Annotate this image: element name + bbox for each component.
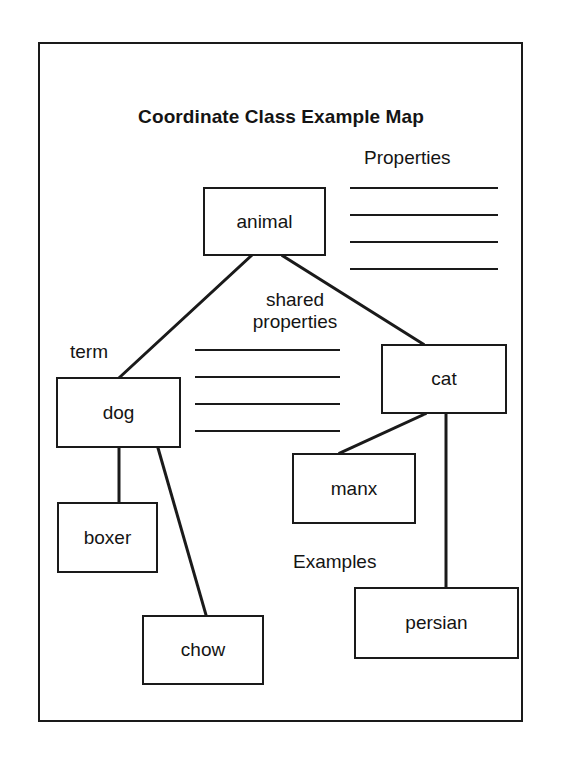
node-dog: dog (56, 377, 181, 448)
edge-dog-chow (158, 448, 206, 615)
node-persian: persian (354, 587, 519, 659)
node-boxer: boxer (57, 502, 158, 573)
node-boxer-label: boxer (84, 527, 132, 549)
node-cat: cat (381, 344, 507, 414)
edge-cat-manx (340, 414, 425, 453)
shared-label-line1: shared (235, 289, 355, 311)
concept-map-canvas: Coordinate Class Example Map (0, 0, 564, 761)
node-cat-label: cat (431, 368, 456, 390)
node-animal: animal (203, 187, 326, 256)
node-manx-label: manx (331, 478, 377, 500)
node-chow: chow (142, 615, 264, 685)
term-label: term (70, 341, 108, 363)
node-persian-label: persian (405, 612, 467, 634)
properties-label: Properties (364, 147, 451, 169)
shared-label-line2: properties (220, 311, 370, 333)
examples-label: Examples (293, 551, 376, 573)
node-dog-label: dog (103, 402, 135, 424)
node-chow-label: chow (181, 639, 225, 661)
node-manx: manx (292, 453, 416, 524)
node-animal-label: animal (237, 211, 293, 233)
